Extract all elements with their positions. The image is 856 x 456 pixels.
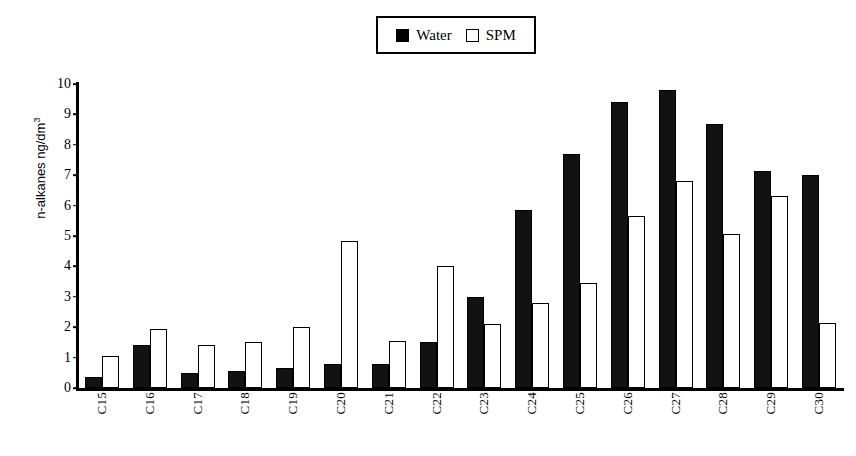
bar-spm-c19 bbox=[293, 327, 310, 388]
x-axis-label-c29: C29 bbox=[763, 392, 779, 417]
x-axis-label-c27: C27 bbox=[668, 392, 684, 417]
bar-spm-c20 bbox=[341, 241, 358, 388]
x-axis-label-c19: C19 bbox=[285, 392, 301, 417]
bar-spm-c27 bbox=[676, 181, 693, 388]
bar-water-c26 bbox=[611, 102, 628, 388]
bar-group bbox=[174, 84, 222, 388]
x-axis-line bbox=[76, 388, 844, 391]
bar-group bbox=[604, 84, 652, 388]
bar-water-c23 bbox=[467, 297, 484, 388]
y-axis-title-exponent: 3 bbox=[32, 118, 42, 123]
bar-water-c20 bbox=[324, 364, 341, 388]
bar-water-c28 bbox=[706, 124, 723, 388]
x-axis-label-cell: C19 bbox=[269, 392, 317, 456]
x-axis-label-cell: C18 bbox=[221, 392, 269, 456]
bar-spm-c28 bbox=[723, 234, 740, 388]
y-axis-tick-label: 9 bbox=[64, 106, 71, 122]
bar-spm-c22 bbox=[437, 266, 454, 388]
bar-spm-c26 bbox=[628, 216, 645, 388]
bar-spm-c16 bbox=[150, 329, 167, 388]
y-axis-tick-label: 2 bbox=[64, 319, 71, 335]
x-axis-label-cell: C30 bbox=[795, 392, 843, 456]
bar-group bbox=[508, 84, 556, 388]
chart-legend: Water SPM bbox=[376, 16, 536, 54]
x-axis-label-cell: C15 bbox=[78, 392, 126, 456]
x-axis-label-c18: C18 bbox=[237, 392, 253, 417]
bar-water-c16 bbox=[133, 345, 150, 388]
bar-water-c22 bbox=[420, 342, 437, 388]
x-axis-label-cell: C27 bbox=[652, 392, 700, 456]
bar-spm-c17 bbox=[198, 345, 215, 388]
x-axis-label-c25: C25 bbox=[572, 392, 588, 417]
y-axis-tick-label: 5 bbox=[64, 228, 71, 244]
x-axis-label-c20: C20 bbox=[333, 392, 349, 417]
bar-group bbox=[269, 84, 317, 388]
legend-label-spm: SPM bbox=[486, 28, 516, 43]
y-axis-title: n-alkanes ng/dm3 bbox=[32, 68, 48, 268]
bar-spm-c30 bbox=[819, 323, 836, 388]
bar-spm-c21 bbox=[389, 341, 406, 388]
bar-group bbox=[126, 84, 174, 388]
bar-group bbox=[795, 84, 843, 388]
y-axis-tick-label: 6 bbox=[64, 198, 71, 214]
bar-water-c30 bbox=[802, 175, 819, 388]
x-axis-label-c21: C21 bbox=[381, 392, 397, 417]
bar-group bbox=[556, 84, 604, 388]
bar-groups bbox=[78, 84, 843, 388]
bar-group bbox=[78, 84, 126, 388]
y-axis-tick-label: 1 bbox=[64, 350, 71, 366]
bar-chart: Water SPM n-alkanes ng/dm3 012345678910 … bbox=[0, 0, 856, 456]
x-axis-label-cell: C26 bbox=[604, 392, 652, 456]
legend-entry-water: Water bbox=[396, 28, 451, 43]
bar-spm-c24 bbox=[532, 303, 549, 388]
x-axis-label-c22: C22 bbox=[429, 392, 445, 417]
y-axis-tick-label: 3 bbox=[64, 289, 71, 305]
x-axis-label-c15: C15 bbox=[94, 392, 110, 417]
y-axis-tick-label: 4 bbox=[64, 258, 71, 274]
bar-group bbox=[365, 84, 413, 388]
x-axis-label-c24: C24 bbox=[524, 392, 540, 417]
y-axis-title-text: n-alkanes ng/dm bbox=[33, 123, 48, 219]
bar-group bbox=[700, 84, 748, 388]
bar-spm-c29 bbox=[771, 196, 788, 388]
x-axis-label-c26: C26 bbox=[620, 392, 636, 417]
x-axis-label-cell: C17 bbox=[174, 392, 222, 456]
x-axis-label-c17: C17 bbox=[190, 392, 206, 417]
bar-group bbox=[317, 84, 365, 388]
bar-water-c29 bbox=[754, 171, 771, 388]
plot-area: 012345678910 bbox=[78, 84, 843, 388]
bar-spm-c18 bbox=[245, 342, 262, 388]
x-axis-label-cell: C21 bbox=[365, 392, 413, 456]
x-axis-label-cell: C20 bbox=[317, 392, 365, 456]
y-axis-tick-label: 10 bbox=[57, 76, 71, 92]
bar-water-c17 bbox=[181, 373, 198, 388]
x-axis-label-c28: C28 bbox=[715, 392, 731, 417]
bar-water-c24 bbox=[515, 210, 532, 388]
bar-spm-c25 bbox=[580, 283, 597, 388]
x-axis-label-c30: C30 bbox=[811, 392, 827, 417]
x-axis-label-cell: C22 bbox=[413, 392, 461, 456]
y-axis-tick-label: 0 bbox=[64, 380, 71, 396]
x-axis-label-cell: C28 bbox=[700, 392, 748, 456]
bar-group bbox=[652, 84, 700, 388]
bar-group bbox=[221, 84, 269, 388]
bar-group bbox=[461, 84, 509, 388]
x-axis-label-cell: C23 bbox=[461, 392, 509, 456]
legend-entry-spm: SPM bbox=[466, 28, 516, 43]
bar-spm-c15 bbox=[102, 356, 119, 388]
x-axis-label-c16: C16 bbox=[142, 392, 158, 417]
bar-water-c21 bbox=[372, 364, 389, 388]
bar-spm-c23 bbox=[484, 324, 501, 388]
bar-water-c19 bbox=[276, 368, 293, 388]
bar-group bbox=[413, 84, 461, 388]
bar-water-c27 bbox=[659, 90, 676, 388]
x-axis-label-cell: C25 bbox=[556, 392, 604, 456]
x-axis-label-c23: C23 bbox=[476, 392, 492, 417]
legend-swatch-water-icon bbox=[396, 29, 409, 42]
legend-swatch-spm-icon bbox=[466, 29, 479, 42]
x-axis-label-cell: C24 bbox=[508, 392, 556, 456]
y-axis-tick-label: 7 bbox=[64, 167, 71, 183]
x-axis-labels: C15C16C17C18C19C20C21C22C23C24C25C26C27C… bbox=[78, 392, 843, 456]
bar-water-c18 bbox=[228, 371, 245, 388]
x-axis-label-cell: C29 bbox=[747, 392, 795, 456]
